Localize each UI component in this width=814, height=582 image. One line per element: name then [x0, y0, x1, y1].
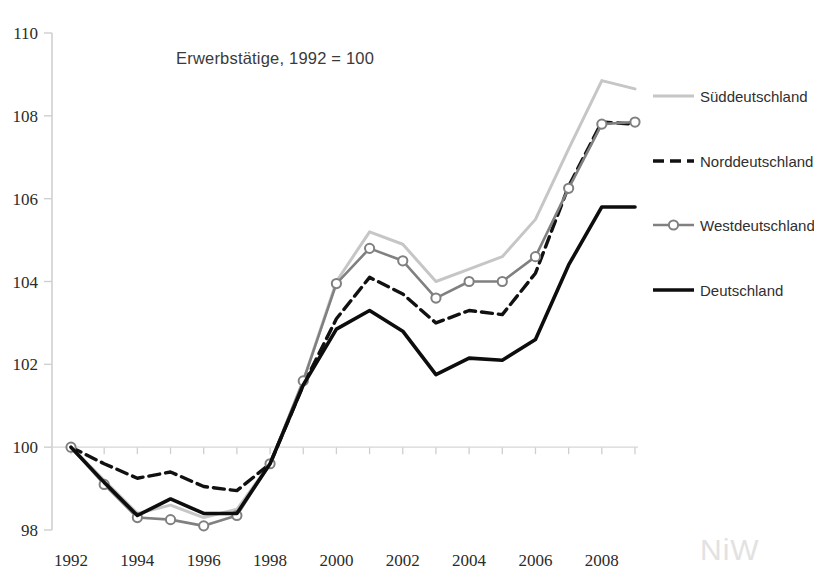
- y-tick-label: 108: [13, 107, 39, 126]
- y-tick-label: 110: [13, 24, 38, 43]
- watermark-logo: NiW: [700, 533, 760, 566]
- x-tick-label: 2008: [585, 551, 619, 570]
- x-tick-label: 2000: [319, 551, 353, 570]
- data-point-marker: [531, 252, 540, 261]
- data-point-marker: [365, 244, 374, 253]
- chart-container: 98100102104106108110 1992199419961998200…: [0, 0, 814, 582]
- x-tick-label: 1992: [54, 551, 88, 570]
- x-tick-label: 1996: [187, 551, 221, 570]
- y-tick-label: 106: [13, 190, 39, 209]
- y-tick-label: 102: [13, 355, 39, 374]
- data-point-marker: [630, 117, 639, 126]
- data-point-marker: [498, 277, 507, 286]
- x-tick-label: 1998: [253, 551, 287, 570]
- legend-item-süddeutschland: Süddeutschland: [653, 88, 808, 105]
- x-tick-label: 2006: [518, 551, 552, 570]
- legend: SüddeutschlandNorddeutschlandWestdeutsch…: [653, 88, 814, 299]
- y-axis: 98100102104106108110: [13, 24, 53, 540]
- data-point-marker: [597, 120, 606, 129]
- legend-label: Deutschland: [700, 282, 783, 299]
- x-tick-label: 2002: [386, 551, 420, 570]
- data-point-marker: [465, 277, 474, 286]
- data-point-marker: [398, 256, 407, 265]
- y-tick-label: 100: [13, 438, 39, 457]
- legend-label: Süddeutschland: [700, 88, 808, 105]
- x-axis: 199219941996199820002002200420062008: [54, 447, 635, 570]
- chart-title: Erwerbstätige, 1992 = 100: [176, 49, 374, 67]
- series-süddeutschland: [71, 81, 635, 518]
- series-deutschland: [71, 207, 635, 516]
- y-tick-label: 104: [13, 273, 39, 292]
- legend-item-westdeutschland: Westdeutschland: [653, 217, 814, 234]
- data-point-marker: [332, 279, 341, 288]
- legend-item-norddeutschland: Norddeutschland: [653, 153, 813, 170]
- legend-label: Norddeutschland: [700, 153, 813, 170]
- data-point-marker: [431, 293, 440, 302]
- legend-marker-icon: [669, 220, 678, 229]
- line-chart: 98100102104106108110 1992199419961998200…: [0, 0, 814, 582]
- legend-item-deutschland: Deutschland: [653, 282, 783, 299]
- legend-label: Westdeutschland: [700, 217, 814, 234]
- x-tick-label: 2004: [452, 551, 487, 570]
- data-point-marker: [199, 521, 208, 530]
- y-tick-label: 98: [21, 521, 38, 540]
- series-lines: [66, 81, 639, 531]
- x-tick-label: 1994: [120, 551, 155, 570]
- data-point-marker: [564, 184, 573, 193]
- data-point-marker: [166, 515, 175, 524]
